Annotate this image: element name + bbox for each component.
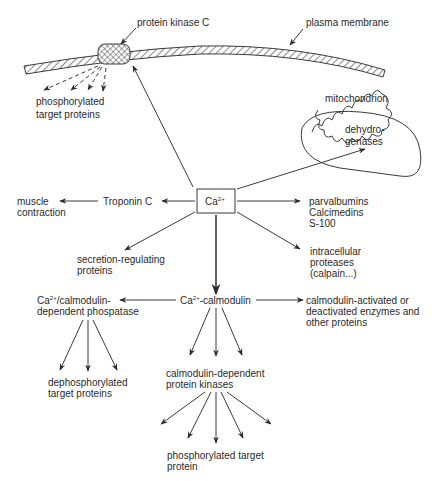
calmodulin-dependent-kinases-label: calmodulin-dependent protein kinases bbox=[166, 368, 267, 390]
phosphorylated-target-protein-bottom-label: phosphorylated target protein bbox=[167, 450, 267, 472]
dephosphorylated-target-proteins-label: dephosphorylated target proteins bbox=[48, 377, 130, 399]
dehydrogenases-label: dehydro- genases bbox=[345, 124, 387, 147]
intracellular-proteases-label: intracellular proteases (calpain...) bbox=[310, 246, 364, 279]
ca-calmodulin-label: Ca2+-calmodulin bbox=[180, 295, 251, 306]
parvalbumins-label: parvalbumins Calcimedins S-100 bbox=[309, 196, 371, 229]
plasma-membrane bbox=[24, 46, 385, 77]
protein-kinase-c-label: protein kinase C bbox=[137, 17, 209, 28]
phosphorylated-target-proteins-top: phosphorylated target proteins bbox=[36, 96, 107, 120]
mitochondrion-label: mitochondrion bbox=[325, 93, 388, 104]
phosphatase-label: Ca2+/calmodulin- dependent phospatase bbox=[37, 295, 139, 317]
calmodulin-activated-enzymes-label: calmodulin-activated or deactivated enzy… bbox=[306, 295, 422, 328]
muscle-contraction-label: muscle contraction bbox=[17, 196, 66, 218]
protein-kinase-c-blob bbox=[98, 44, 130, 64]
ca-node: Ca2+ bbox=[197, 189, 235, 213]
plasma-membrane-label: plasma membrane bbox=[306, 17, 389, 28]
calcium-signaling-diagram: protein kinase C plasma membrane phospho… bbox=[0, 0, 434, 481]
troponin-c-label: Troponin C bbox=[103, 196, 152, 207]
secretion-regulating-proteins-label: secretion-regulating proteins bbox=[77, 254, 168, 276]
